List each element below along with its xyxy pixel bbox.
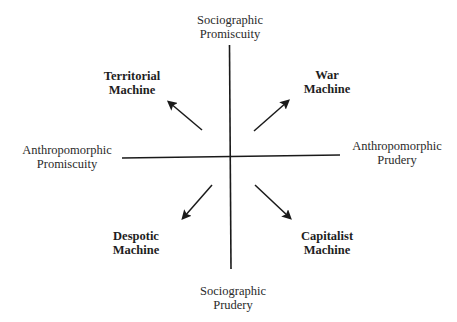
axis-label-right: Anthropomorphic Prudery xyxy=(342,139,452,167)
axis-label-left-line1: Anthropomorphic xyxy=(12,143,122,157)
axis-label-top-line1: Sociographic xyxy=(180,13,280,27)
axis-label-bottom-line2: Prudery xyxy=(183,298,283,312)
arrow-despotic xyxy=(184,185,212,217)
quadrant-top-left-line2: Machine xyxy=(92,83,172,97)
axis-label-left: Anthropomorphic Promiscuity xyxy=(12,143,122,171)
quadrant-label-capitalist: Capitalist Machine xyxy=(287,229,367,257)
quadrant-label-war: War Machine xyxy=(287,68,367,96)
arrow-war xyxy=(254,102,287,131)
quadrant-bottom-left-line2: Machine xyxy=(96,243,176,257)
arrow-capitalist xyxy=(255,185,289,217)
axis-label-bottom-line1: Sociographic xyxy=(183,284,283,298)
quadrant-bottom-left-line1: Despotic xyxy=(96,229,176,243)
axis-label-right-line1: Anthropomorphic xyxy=(342,139,452,153)
quadrant-bottom-right-line1: Capitalist xyxy=(287,229,367,243)
quadrant-bottom-right-line2: Machine xyxy=(287,243,367,257)
axis-label-top: Sociographic Promiscuity xyxy=(180,13,280,41)
quadrant-top-right-line2: Machine xyxy=(287,82,367,96)
axis-label-top-line2: Promiscuity xyxy=(180,27,280,41)
axis-label-left-line2: Promiscuity xyxy=(12,157,122,171)
quadrant-top-left-line1: Territorial xyxy=(92,69,172,83)
quadrant-top-right-line1: War xyxy=(287,68,367,82)
arrow-territorial xyxy=(170,103,202,130)
axis-label-bottom: Sociographic Prudery xyxy=(183,284,283,312)
axis-label-right-line2: Prudery xyxy=(342,153,452,167)
quadrant-label-despotic: Despotic Machine xyxy=(96,229,176,257)
quadrant-diagram: Sociographic Promiscuity Sociographic Pr… xyxy=(0,0,457,322)
quadrant-label-territorial: Territorial Machine xyxy=(92,69,172,97)
